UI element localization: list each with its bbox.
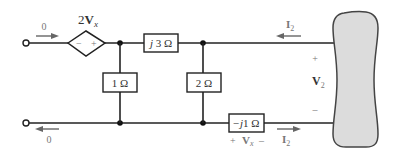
- v2-minus: –: [312, 104, 319, 115]
- input-terminal-bottom: [23, 120, 29, 126]
- impedance-j3-label: j 3 Ω: [148, 37, 172, 49]
- input-terminal-top: [23, 40, 29, 46]
- input-current-arrow-top: [36, 33, 59, 39]
- vx-minus: –: [258, 135, 265, 146]
- i2-arrow-bottom: [277, 126, 301, 132]
- input-current-top-value: 0: [42, 21, 47, 32]
- impedance-minus-j1: −j1 Ω: [229, 114, 264, 132]
- resistor-2ohm-label: 2 Ω: [196, 77, 212, 89]
- impedance-minus-j1-label: −j1 Ω: [233, 117, 260, 129]
- vx-plus: +: [230, 135, 236, 146]
- impedance-j3: j 3 Ω: [144, 34, 178, 52]
- v2-label: V2: [312, 74, 325, 90]
- load-network-blob: [333, 12, 378, 147]
- i2-arrow-top: [276, 33, 301, 39]
- resistor-1ohm: 1 Ω: [103, 73, 137, 92]
- dependent-voltage-source: − +: [68, 31, 105, 56]
- i2-label-top: I2: [286, 18, 294, 33]
- resistor-1ohm-label: 1 Ω: [112, 77, 128, 89]
- source-plus-sign: +: [91, 38, 97, 49]
- input-current-arrow-bottom: [35, 126, 59, 132]
- i2-label-bottom: I2: [282, 133, 290, 148]
- source-minus-sign: −: [76, 38, 82, 49]
- input-current-bottom-value: 0: [47, 134, 52, 145]
- source-label: 2Vx: [78, 12, 98, 29]
- vx-label: Vx: [242, 134, 254, 148]
- v2-plus: +: [312, 53, 318, 64]
- circuit-diagram: − + 2Vx j 3 Ω 1 Ω 2 Ω −j1 Ω + Vx – 0: [0, 0, 394, 158]
- resistor-2ohm: 2 Ω: [187, 73, 221, 92]
